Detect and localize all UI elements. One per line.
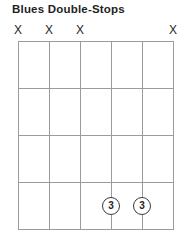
muted-string-x-mark: X xyxy=(14,24,22,36)
finger-marker: 3 xyxy=(102,197,120,215)
fret-line xyxy=(18,229,174,230)
muted-string-x-mark: X xyxy=(169,24,177,36)
fret-line xyxy=(18,88,174,89)
chord-diagram-page: Blues Double-Stops XXXX33 xyxy=(0,0,184,241)
fret-line xyxy=(18,182,174,183)
fretboard-diagram: XXXX33 xyxy=(0,0,184,241)
fret-line xyxy=(18,41,174,42)
fret-line xyxy=(18,135,174,136)
finger-marker: 3 xyxy=(133,197,151,215)
muted-string-x-mark: X xyxy=(76,24,84,36)
muted-string-x-mark: X xyxy=(45,24,53,36)
